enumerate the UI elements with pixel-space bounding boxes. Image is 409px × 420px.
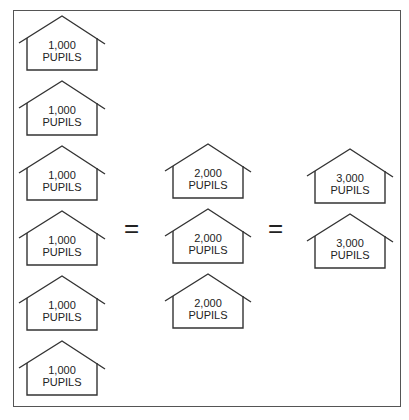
pupil-unit: PUPILS xyxy=(305,249,395,261)
pupil-unit: PUPILS xyxy=(17,246,107,258)
pupil-unit: PUPILS xyxy=(17,116,107,128)
school-house-column-2-1: 2,000PUPILS xyxy=(163,142,253,200)
pupil-unit: PUPILS xyxy=(17,311,107,323)
equals-sign-2: = xyxy=(268,215,283,241)
pupil-count: 1,000 xyxy=(17,169,107,181)
house-label: 1,000PUPILS xyxy=(17,234,107,258)
pupil-unit: PUPILS xyxy=(163,309,253,321)
house-label: 2,000PUPILS xyxy=(163,297,253,321)
pupil-unit: PUPILS xyxy=(163,244,253,256)
house-label: 1,000PUPILS xyxy=(17,364,107,388)
school-house-column-1-5: 1,000PUPILS xyxy=(17,274,107,332)
house-label: 1,000PUPILS xyxy=(17,299,107,323)
house-label: 3,000PUPILS xyxy=(305,172,395,196)
school-house-column-1-6: 1,000PUPILS xyxy=(17,339,107,397)
school-house-column-2-2: 2,000PUPILS xyxy=(163,207,253,265)
school-house-column-1-3: 1,000PUPILS xyxy=(17,144,107,202)
pupil-count: 1,000 xyxy=(17,299,107,311)
pupil-count: 3,000 xyxy=(305,237,395,249)
pupil-count: 1,000 xyxy=(17,39,107,51)
house-label: 3,000PUPILS xyxy=(305,237,395,261)
school-house-column-1-4: 1,000PUPILS xyxy=(17,209,107,267)
pupil-count: 3,000 xyxy=(305,172,395,184)
pupil-count: 2,000 xyxy=(163,232,253,244)
school-house-column-1-1: 1,000PUPILS xyxy=(17,14,107,72)
pupil-unit: PUPILS xyxy=(17,376,107,388)
school-house-column-2-3: 2,000PUPILS xyxy=(163,272,253,330)
house-label: 1,000PUPILS xyxy=(17,39,107,63)
pupil-unit: PUPILS xyxy=(163,179,253,191)
equals-sign-1: = xyxy=(124,215,139,241)
house-label: 1,000PUPILS xyxy=(17,104,107,128)
house-label: 1,000PUPILS xyxy=(17,169,107,193)
pupil-count: 1,000 xyxy=(17,234,107,246)
school-house-column-3-2: 3,000PUPILS xyxy=(305,212,395,270)
school-house-column-3-1: 3,000PUPILS xyxy=(305,147,395,205)
pupil-unit: PUPILS xyxy=(17,181,107,193)
pupil-unit: PUPILS xyxy=(17,51,107,63)
school-house-column-1-2: 1,000PUPILS xyxy=(17,79,107,137)
house-label: 2,000PUPILS xyxy=(163,167,253,191)
house-label: 2,000PUPILS xyxy=(163,232,253,256)
pupil-count: 1,000 xyxy=(17,364,107,376)
pupil-count: 1,000 xyxy=(17,104,107,116)
pupil-count: 2,000 xyxy=(163,167,253,179)
pupil-unit: PUPILS xyxy=(305,184,395,196)
pupil-count: 2,000 xyxy=(163,297,253,309)
